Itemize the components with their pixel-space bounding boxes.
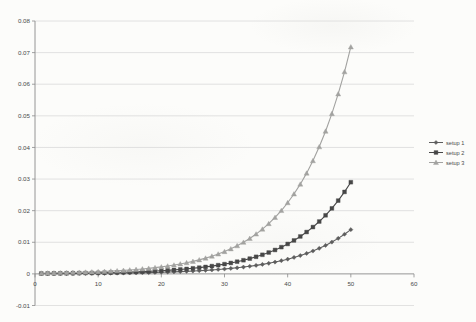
x-tick-label: 40 [284, 280, 291, 287]
series-marker-setup-3 [304, 171, 309, 175]
series-marker-setup-1 [241, 265, 245, 269]
series-marker-setup-1 [311, 249, 315, 253]
series-marker-setup-3 [342, 69, 347, 73]
series-marker-setup-2 [330, 206, 334, 210]
series-marker-setup-3 [235, 243, 240, 247]
series-marker-setup-2 [311, 225, 315, 229]
legend-marker-diamond [434, 140, 438, 144]
series-line-setup-1 [41, 230, 351, 274]
legend-label: setup 3 [446, 160, 464, 166]
series-marker-setup-2 [242, 258, 246, 262]
series-marker-setup-2 [267, 251, 271, 255]
series-marker-setup-2 [248, 257, 252, 261]
series-marker-setup-3 [228, 246, 233, 250]
series-marker-setup-1 [260, 262, 264, 266]
y-tick-label: -0.01 [16, 302, 31, 309]
series-marker-setup-3 [291, 192, 296, 196]
series-marker-setup-2 [235, 260, 239, 264]
legend-label: setup 1 [446, 140, 464, 146]
series-marker-setup-1 [292, 255, 296, 259]
series-marker-setup-2 [343, 190, 347, 194]
series-marker-setup-1 [229, 266, 233, 270]
x-tick-label: 50 [347, 280, 354, 287]
series-marker-setup-2 [204, 265, 208, 269]
series-marker-setup-1 [305, 251, 309, 255]
series-marker-setup-2 [298, 235, 302, 239]
y-tick-label: 0.03 [18, 175, 31, 182]
series-marker-setup-2 [292, 239, 296, 243]
series-marker-setup-2 [317, 220, 321, 224]
y-tick-label: 0.04 [18, 144, 31, 151]
series-marker-setup-2 [336, 199, 340, 203]
y-tick-label: 0.01 [18, 238, 31, 245]
series-marker-setup-3 [310, 158, 315, 162]
series-marker-setup-2 [349, 180, 353, 184]
series-marker-setup-3 [298, 182, 303, 186]
series-line-setup-2 [41, 182, 351, 273]
series-marker-setup-3 [323, 129, 328, 133]
x-tick-label: 60 [411, 280, 418, 287]
x-tick-label: 20 [158, 280, 165, 287]
y-tick-label: 0.02 [18, 207, 31, 214]
series-marker-setup-2 [305, 230, 309, 234]
series-line-setup-3 [41, 47, 351, 273]
series-marker-setup-2 [229, 261, 233, 265]
series-marker-setup-2 [197, 266, 201, 270]
y-tick-label: 0.05 [18, 112, 31, 119]
series-marker-setup-2 [191, 266, 195, 270]
series-marker-setup-1 [286, 257, 290, 261]
series-marker-setup-1 [317, 246, 321, 250]
series-marker-setup-1 [222, 267, 226, 271]
series-marker-setup-3 [317, 144, 322, 148]
x-tick-label: 0 [33, 280, 37, 287]
series-marker-setup-1 [248, 264, 252, 268]
series-marker-setup-2 [210, 264, 214, 268]
series-marker-setup-2 [286, 242, 290, 246]
series-marker-setup-3 [348, 45, 353, 49]
series-marker-setup-1 [298, 253, 302, 257]
series-marker-setup-2 [159, 269, 163, 273]
series-marker-setup-3 [336, 92, 341, 96]
series-marker-setup-1 [279, 259, 283, 263]
series-marker-setup-1 [216, 267, 220, 271]
series-marker-setup-2 [223, 262, 227, 266]
series-marker-setup-3 [329, 111, 334, 115]
series-marker-setup-1 [267, 261, 271, 265]
series-marker-setup-1 [210, 268, 214, 272]
series-marker-setup-1 [323, 243, 327, 247]
y-tick-label: 0 [27, 270, 31, 277]
series-marker-setup-2 [261, 253, 265, 257]
series-marker-setup-1 [273, 260, 277, 264]
series-marker-setup-2 [178, 268, 182, 272]
series-marker-setup-2 [324, 213, 328, 217]
y-tick-label: 0.06 [18, 80, 31, 87]
series-marker-setup-1 [235, 266, 239, 270]
series-marker-setup-2 [273, 248, 277, 252]
series-marker-setup-2 [254, 255, 258, 259]
series-marker-setup-1 [254, 263, 258, 267]
series-marker-setup-2 [172, 268, 176, 272]
legend-marker-square [434, 151, 438, 155]
chart-container: -0.0100.010.020.030.040.050.060.070.0801… [0, 0, 476, 322]
y-tick-label: 0.08 [18, 17, 31, 24]
series-marker-setup-2 [185, 267, 189, 271]
line-chart-svg: -0.0100.010.020.030.040.050.060.070.0801… [0, 0, 476, 322]
x-tick-label: 10 [95, 280, 102, 287]
series-marker-setup-2 [166, 268, 170, 272]
x-tick-label: 30 [221, 280, 228, 287]
y-tick-label: 0.07 [18, 49, 31, 56]
series-marker-setup-2 [279, 245, 283, 249]
series-marker-setup-2 [216, 263, 220, 267]
legend-label: setup 2 [446, 150, 464, 156]
